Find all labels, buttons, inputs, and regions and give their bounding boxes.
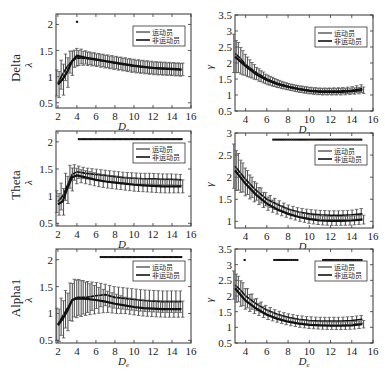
x-tick-label: 10 bbox=[128, 345, 140, 357]
x-tick-label: 10 bbox=[128, 110, 140, 122]
x-tick-label: 12 bbox=[325, 230, 336, 242]
legend-label-athletes: 运动员 bbox=[334, 147, 355, 156]
y-axis-label: λ bbox=[22, 62, 34, 68]
x-tick-label: 6 bbox=[93, 110, 99, 122]
y-tick-label: 0.5 bbox=[39, 217, 53, 229]
x-tick-label: 4 bbox=[74, 110, 80, 122]
x-tick-label: 14 bbox=[166, 228, 178, 240]
significance-marks bbox=[76, 21, 78, 23]
y-tick-label: 1.5 bbox=[39, 163, 53, 175]
x-tick-label: 16 bbox=[368, 230, 380, 242]
legend-label-athletes: 运动员 bbox=[152, 145, 173, 154]
x-tick-label: 16 bbox=[186, 228, 198, 240]
y-tick-label: 3 bbox=[227, 259, 233, 271]
legend: 运动员非运动员 bbox=[315, 27, 367, 47]
y-axis-label: λ bbox=[22, 180, 34, 186]
panels: 2468101214160.511.52Deλ运动员非运动员4681012141… bbox=[22, 9, 379, 369]
y-tick-label: 0.5 bbox=[218, 105, 232, 117]
x-tick-label: 12 bbox=[325, 113, 336, 125]
panel-delta-gamma: 468101214160.511.522.533.5Deγ运动员非运动员 bbox=[203, 9, 379, 137]
x-tick-label: 8 bbox=[285, 345, 291, 357]
y-tick-label: 0.5 bbox=[218, 337, 232, 349]
y-tick-label: 2.5 bbox=[218, 41, 232, 53]
significance-marks bbox=[78, 138, 183, 140]
x-tick-label: 2 bbox=[55, 228, 61, 240]
x-axis-label: De bbox=[297, 355, 309, 369]
legend-label-athletes: 运动员 bbox=[152, 263, 173, 272]
x-tick-label: 6 bbox=[264, 345, 270, 357]
x-axis-label: De bbox=[117, 355, 129, 369]
legend-label-non-athletes: 非运动员 bbox=[334, 155, 362, 164]
y-tick-label: 0.5 bbox=[39, 334, 53, 346]
row-label-theta: Theta bbox=[8, 170, 23, 200]
y-axis-label: γ bbox=[203, 64, 215, 69]
legend-label-athletes: 运动员 bbox=[152, 28, 173, 37]
x-tick-label: 4 bbox=[74, 228, 80, 240]
x-tick-label: 6 bbox=[93, 345, 99, 357]
y-tick-label: 2 bbox=[48, 254, 54, 266]
y-tick-label: 3.5 bbox=[218, 243, 232, 255]
legend: 运动员非运动员 bbox=[133, 261, 185, 281]
legend: 运动员非运动员 bbox=[315, 261, 367, 281]
y-tick-label: 1 bbox=[48, 71, 54, 83]
x-tick-label: 8 bbox=[285, 113, 291, 125]
x-tick-label: 10 bbox=[128, 228, 140, 240]
legend-label-non-athletes: 非运动员 bbox=[152, 153, 180, 162]
y-tick-label: 2 bbox=[227, 57, 233, 69]
y-tick-label: 1.5 bbox=[39, 45, 53, 57]
legend: 运动员非运动员 bbox=[133, 26, 185, 46]
panel-theta-gamma: 4681012141611.522.53Deγ运动员非运动员 bbox=[203, 127, 379, 254]
y-tick-label: 3.5 bbox=[218, 9, 232, 21]
panel-theta-lambda: 2468101214160.511.52Deλ运动员非运动员 bbox=[22, 131, 197, 252]
y-tick-label: 2 bbox=[227, 290, 233, 302]
x-tick-label: 4 bbox=[243, 113, 249, 125]
x-tick-label: 12 bbox=[325, 345, 336, 357]
x-tick-label: 14 bbox=[346, 113, 358, 125]
x-tick-label: 16 bbox=[186, 110, 198, 122]
x-tick-label: 4 bbox=[74, 345, 80, 357]
x-tick-label: 16 bbox=[368, 345, 380, 357]
x-tick-label: 6 bbox=[264, 113, 270, 125]
panel-alpha1-lambda: 2468101214160.511.52Deλ运动员非运动员 bbox=[22, 249, 197, 369]
x-tick-label: 12 bbox=[147, 110, 158, 122]
x-tick-label: 4 bbox=[243, 345, 249, 357]
x-tick-label: 4 bbox=[243, 230, 249, 242]
row-label-alpha1: Alpha1 bbox=[8, 279, 23, 317]
x-tick-label: 12 bbox=[147, 228, 158, 240]
panel-delta-lambda: 2468101214160.511.52Deλ运动员非运动员 bbox=[22, 14, 197, 134]
y-tick-label: 3 bbox=[227, 127, 233, 139]
legend-label-athletes: 运动员 bbox=[334, 29, 355, 38]
y-tick-label: 2 bbox=[48, 136, 54, 148]
significance-marks bbox=[272, 139, 362, 141]
y-tick-label: 2 bbox=[227, 171, 233, 183]
figure: Delta Theta Alpha1 2468101214160.511.52D… bbox=[0, 0, 385, 372]
legend-label-non-athletes: 非运动员 bbox=[334, 37, 362, 46]
x-tick-label: 16 bbox=[368, 113, 380, 125]
legend-label-non-athletes: 非运动员 bbox=[152, 271, 180, 280]
x-tick-label: 14 bbox=[166, 110, 178, 122]
y-tick-label: 2.5 bbox=[218, 274, 232, 286]
x-tick-label: 14 bbox=[346, 345, 358, 357]
x-tick-label: 2 bbox=[55, 110, 61, 122]
y-tick-label: 1 bbox=[227, 321, 233, 333]
y-tick-label: 1 bbox=[48, 307, 54, 319]
x-tick-label: 6 bbox=[264, 230, 270, 242]
y-tick-label: 0.5 bbox=[39, 97, 53, 109]
legend: 运动员非运动员 bbox=[315, 145, 367, 165]
y-tick-label: 1.5 bbox=[218, 73, 232, 85]
y-tick-label: 1.5 bbox=[39, 281, 53, 293]
y-tick-label: 3 bbox=[227, 25, 233, 37]
x-tick-label: 12 bbox=[147, 345, 158, 357]
panel-alpha1-gamma: 468101214160.511.522.533.5Deγ运动员非运动员 bbox=[203, 243, 379, 369]
row-labels: Delta Theta Alpha1 bbox=[8, 54, 23, 317]
y-tick-label: 1 bbox=[227, 215, 233, 227]
x-tick-label: 8 bbox=[285, 230, 291, 242]
x-tick-label: 6 bbox=[93, 228, 99, 240]
y-tick-label: 2.5 bbox=[218, 149, 232, 161]
y-tick-label: 1.5 bbox=[218, 306, 232, 318]
x-tick-label: 14 bbox=[346, 230, 358, 242]
row-label-delta: Delta bbox=[8, 54, 23, 82]
y-axis-label: γ bbox=[203, 182, 215, 187]
x-tick-label: 16 bbox=[186, 345, 198, 357]
legend-label-non-athletes: 非运动员 bbox=[152, 36, 180, 45]
